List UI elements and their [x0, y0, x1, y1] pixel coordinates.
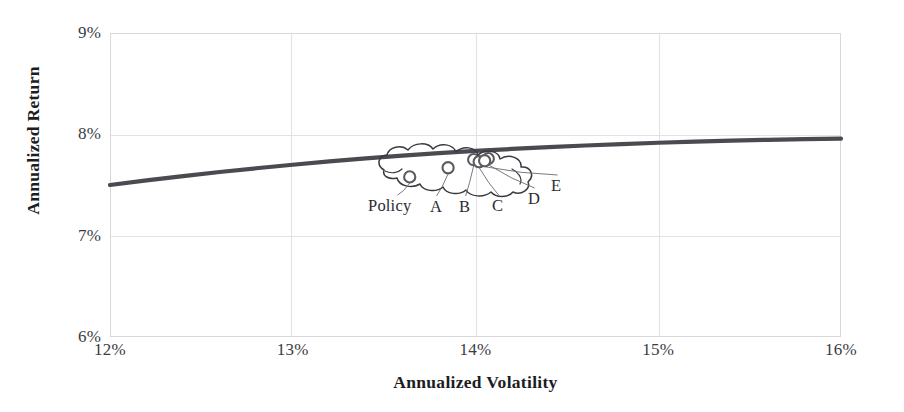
x-tick-label: 14% — [460, 340, 492, 360]
x-axis-title: Annualized Volatility — [110, 372, 841, 393]
y-axis-ticks: 9% 8% 7% 6% — [0, 33, 110, 337]
x-tick-label: 13% — [277, 340, 309, 360]
point-label-d: D — [528, 189, 540, 209]
point-label-e: E — [551, 176, 561, 196]
point-label-a: A — [430, 197, 442, 217]
point-label-policy: Policy — [368, 196, 411, 216]
y-axis-title: Annualized Return — [23, 11, 44, 271]
chart-screenshot: 9% 8% 7% 6% Annualized Return 12% 13% 14… — [0, 0, 904, 412]
gridline-vertical-14pct — [476, 34, 477, 336]
x-tick-label: 16% — [825, 340, 857, 360]
x-tick-label: 15% — [642, 340, 674, 360]
gridline-vertical-13pct — [291, 34, 292, 336]
x-tick-label: 12% — [94, 340, 126, 360]
point-label-b: B — [459, 197, 470, 217]
x-axis-ticks: 12% 13% 14% 15% 16% — [110, 340, 841, 366]
plot-area — [110, 33, 841, 337]
point-label-c: C — [492, 196, 503, 216]
gridline-vertical-15pct — [659, 34, 660, 336]
